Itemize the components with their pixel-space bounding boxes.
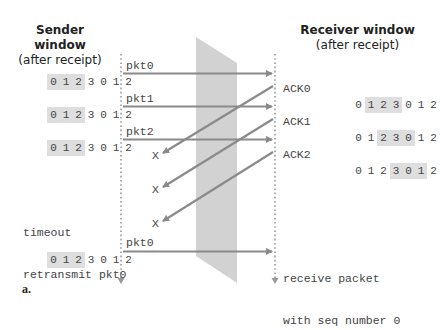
seq-num: 0 xyxy=(402,163,415,179)
receive-line-2: with seq number 0 xyxy=(283,314,400,328)
seq-num: 2 xyxy=(72,74,85,90)
sender-window-2: 0123012 xyxy=(21,91,135,107)
seq-num: 1 xyxy=(415,97,428,113)
seq-num: 0 xyxy=(352,163,365,179)
seq-num: 1 xyxy=(60,74,73,90)
seq-num: 1 xyxy=(110,140,123,156)
ack0-label: ACK0 xyxy=(283,82,311,96)
seq-num: 1 xyxy=(365,130,378,146)
lost-marker-ack0: X xyxy=(152,149,159,163)
receiver-subtitle: (after receipt) xyxy=(300,38,415,53)
seq-num: 3 xyxy=(85,107,98,123)
sender-title: Sender window xyxy=(10,23,110,53)
ack2-label: ACK2 xyxy=(283,148,311,162)
seq-num: 2 xyxy=(427,163,440,179)
seq-num: 2 xyxy=(377,97,390,113)
seq-num: 2 xyxy=(72,140,85,156)
seq-num: 0 xyxy=(352,130,365,146)
seq-num: 2 xyxy=(72,107,85,123)
seq-num: 0 xyxy=(402,97,415,113)
receiver-timeline-arrowhead xyxy=(272,278,279,284)
seq-num: 0 xyxy=(352,97,365,113)
seq-num: 2 xyxy=(377,130,390,146)
timeout-label: timeout retransmit pkt0 xyxy=(23,198,127,310)
seq-num: 1 xyxy=(365,163,378,179)
receiver-window-3: 0123012 xyxy=(326,147,440,163)
seq-num: 0 xyxy=(402,130,415,146)
timeout-line-2: retransmit pkt0 xyxy=(23,268,127,282)
timeout-line-1: timeout xyxy=(23,226,127,240)
seq-num: 3 xyxy=(390,130,403,146)
seq-num: 1 xyxy=(365,97,378,113)
seq-num: 0 xyxy=(47,140,60,156)
lost-marker-ack1: X xyxy=(152,183,159,197)
seq-num: 0 xyxy=(47,74,60,90)
receive-line-1: receive packet xyxy=(283,272,400,286)
receiver-window-1: 0123012 xyxy=(326,81,440,97)
seq-num: 0 xyxy=(97,107,110,123)
seq-num: 1 xyxy=(110,107,123,123)
seq-num: 1 xyxy=(415,130,428,146)
seq-num: 2 xyxy=(122,140,135,156)
seq-num: 3 xyxy=(390,163,403,179)
seq-num: 0 xyxy=(47,107,60,123)
pkt0-retransmit-label: pkt0 xyxy=(126,236,154,250)
ack1-label: ACK1 xyxy=(283,115,311,129)
seq-num: 0 xyxy=(97,140,110,156)
seq-num: 2 xyxy=(122,74,135,90)
seq-num: 1 xyxy=(60,140,73,156)
seq-num: 3 xyxy=(85,74,98,90)
seq-num: 0 xyxy=(97,74,110,90)
sender-window-1: 0123012 xyxy=(21,58,135,74)
pkt0-label: pkt0 xyxy=(126,59,154,73)
seq-num: 3 xyxy=(85,140,98,156)
figure-caption: a. xyxy=(22,282,31,297)
seq-num: 2 xyxy=(427,97,440,113)
sender-window-3: 0123012 xyxy=(21,124,135,140)
seq-num: 3 xyxy=(390,97,403,113)
pkt2-label: pkt2 xyxy=(126,125,154,139)
receiver-heading: Receiver window (after receipt) xyxy=(300,23,415,53)
receiver-window-2: 0123012 xyxy=(326,114,440,130)
seq-num: 2 xyxy=(427,130,440,146)
seq-num: 1 xyxy=(110,74,123,90)
receiver-title: Receiver window xyxy=(300,23,415,38)
seq-num: 1 xyxy=(415,163,428,179)
receive-note: receive packet with seq number 0 xyxy=(283,244,400,330)
seq-num: 2 xyxy=(377,163,390,179)
seq-num: 2 xyxy=(122,107,135,123)
seq-num: 1 xyxy=(60,107,73,123)
pkt1-label: pkt1 xyxy=(126,92,154,106)
lost-marker-ack2: X xyxy=(152,217,159,231)
